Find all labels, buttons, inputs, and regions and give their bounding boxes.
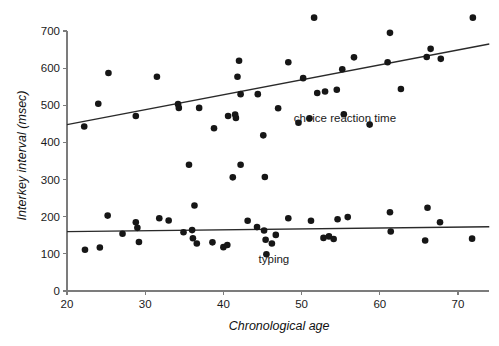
series-annotation: choice reaction time <box>294 112 396 124</box>
data-point <box>176 105 183 112</box>
x-tick-label: 40 <box>217 298 230 310</box>
chart-canvas: 0100200300400500600700 203040506070 choi… <box>0 0 499 346</box>
x-tick-label: 30 <box>139 298 152 310</box>
data-point <box>330 236 337 243</box>
y-tick-label: 400 <box>41 136 60 148</box>
data-point <box>423 54 430 61</box>
data-point <box>211 125 218 132</box>
data-point <box>351 54 358 61</box>
data-point <box>133 219 140 226</box>
data-point <box>244 218 251 225</box>
data-point <box>194 240 201 247</box>
x-tick-label: 70 <box>452 298 465 310</box>
data-point <box>133 113 140 120</box>
data-point <box>314 90 321 97</box>
data-point <box>255 91 262 98</box>
y-tick-label: 500 <box>41 99 60 111</box>
data-point <box>97 244 104 251</box>
data-point <box>95 101 102 108</box>
data-point <box>81 123 88 130</box>
data-point <box>398 86 405 93</box>
data-point <box>209 239 216 246</box>
data-point <box>119 231 126 238</box>
data-point <box>189 227 196 234</box>
data-point <box>191 202 198 209</box>
series-choice-reaction-time <box>67 14 489 180</box>
data-point <box>154 73 161 80</box>
y-tick-label: 300 <box>41 174 60 186</box>
x-axis-title: Chronological age <box>229 319 330 333</box>
data-point <box>437 219 444 226</box>
series-typing <box>67 161 489 257</box>
data-point <box>285 59 292 66</box>
data-point <box>469 235 476 242</box>
data-point <box>424 205 431 212</box>
data-point <box>333 86 340 93</box>
y-tick-label: 100 <box>41 248 60 260</box>
data-point <box>190 235 197 242</box>
data-point <box>196 105 203 112</box>
data-point <box>387 209 394 216</box>
data-point <box>387 228 394 235</box>
data-point <box>387 30 394 37</box>
data-point <box>344 214 351 221</box>
data-point <box>136 239 143 246</box>
data-point <box>237 91 244 98</box>
x-tick-label: 20 <box>61 298 74 310</box>
data-point <box>285 215 292 222</box>
data-point <box>334 216 341 223</box>
x-tick-label: 50 <box>295 298 308 310</box>
data-point <box>224 242 231 249</box>
y-tick-label: 700 <box>41 25 60 37</box>
data-point <box>180 229 187 236</box>
data-point <box>233 115 240 122</box>
data-point <box>156 215 163 222</box>
data-point <box>262 174 269 181</box>
data-point <box>225 113 232 120</box>
y-axis-title: Interkey interval (msec) <box>15 90 29 220</box>
data-point <box>269 240 276 247</box>
x-tick-label: 60 <box>373 298 386 310</box>
data-point <box>422 237 429 244</box>
data-point <box>234 73 241 80</box>
data-point <box>82 246 89 253</box>
scatter-plot-figure: 0100200300400500600700 203040506070 choi… <box>0 0 499 346</box>
data-point <box>262 236 269 243</box>
data-point <box>308 218 315 225</box>
data-point <box>339 66 346 73</box>
data-point <box>275 105 282 112</box>
data-point <box>261 227 268 234</box>
trendline <box>67 227 489 232</box>
y-tick-label: 200 <box>41 211 60 223</box>
data-point <box>236 57 243 64</box>
annotation-layer: choice reaction timetyping <box>259 112 396 265</box>
data-point <box>470 14 477 21</box>
data-point <box>427 46 434 53</box>
series-annotation: typing <box>259 253 290 265</box>
y-tick-label: 0 <box>54 285 60 297</box>
data-point <box>311 14 318 21</box>
data-point <box>186 161 193 168</box>
data-point <box>104 212 111 219</box>
data-point <box>300 75 307 82</box>
data-point <box>165 217 172 224</box>
data-point <box>229 174 236 181</box>
data-point <box>437 56 444 63</box>
data-point <box>322 88 329 95</box>
y-axis-ticks: 0100200300400500600700 <box>41 25 67 297</box>
y-tick-label: 600 <box>41 62 60 74</box>
data-point <box>272 232 279 239</box>
data-series-layer <box>67 14 489 257</box>
x-axis-ticks: 203040506070 <box>61 291 465 310</box>
data-point <box>384 59 391 66</box>
data-point <box>134 225 141 232</box>
data-point <box>260 132 267 139</box>
data-point <box>254 224 261 231</box>
data-point <box>237 161 244 168</box>
data-point <box>105 70 112 77</box>
